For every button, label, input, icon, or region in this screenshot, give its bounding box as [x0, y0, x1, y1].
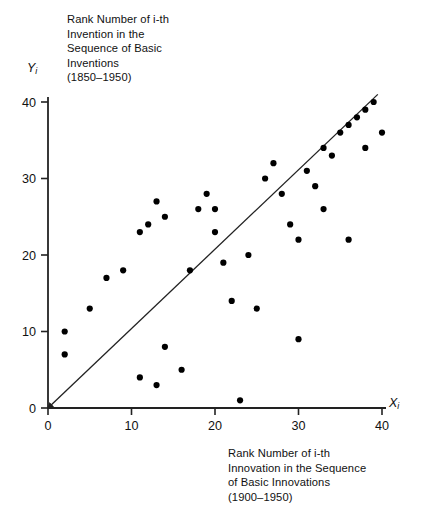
data-point	[62, 351, 68, 357]
data-point	[329, 152, 335, 158]
data-point	[295, 237, 301, 243]
y-tick-label: 10	[22, 325, 36, 339]
x-tick-label: 0	[44, 419, 51, 433]
data-point	[320, 206, 326, 212]
data-point	[145, 221, 151, 227]
data-point	[220, 260, 226, 266]
data-point	[204, 191, 210, 197]
data-point	[346, 122, 352, 128]
data-point	[212, 229, 218, 235]
data-point	[212, 206, 218, 212]
data-point	[346, 237, 352, 243]
x-tick-label: 30	[291, 419, 305, 433]
y-tick-label: 0	[29, 402, 36, 416]
x-axis-ticks: 010203040	[44, 408, 389, 433]
x-tick-label: 20	[208, 419, 222, 433]
data-points	[62, 99, 386, 404]
plot-area: 010203040 010203040	[0, 0, 422, 521]
data-point	[337, 130, 343, 136]
scatter-chart: Rank Number of i-th Invention in the Seq…	[0, 0, 422, 521]
x-axis-caption: Rank Number of i-th Innovation in the Se…	[228, 446, 418, 504]
data-point	[371, 99, 377, 105]
x-tick-label: 10	[124, 419, 138, 433]
data-point	[262, 175, 268, 181]
data-point	[237, 397, 243, 403]
data-point	[137, 229, 143, 235]
data-point	[103, 275, 109, 281]
data-point	[120, 267, 126, 273]
data-point	[162, 344, 168, 350]
data-point	[270, 160, 276, 166]
y-tick-label: 30	[22, 172, 36, 186]
data-point	[362, 107, 368, 113]
data-point	[179, 367, 185, 373]
data-point	[379, 130, 385, 136]
data-point	[137, 374, 143, 380]
data-point	[153, 198, 159, 204]
data-point	[153, 382, 159, 388]
data-point	[312, 183, 318, 189]
data-point	[304, 168, 310, 174]
data-point	[187, 267, 193, 273]
data-point	[245, 252, 251, 258]
data-point	[362, 145, 368, 151]
data-point	[62, 328, 68, 334]
data-point	[195, 206, 201, 212]
data-point	[254, 305, 260, 311]
x-tick-label: 40	[375, 419, 389, 433]
y-tick-label: 40	[22, 96, 36, 110]
data-point	[162, 214, 168, 220]
y-axis-ticks: 010203040	[22, 96, 48, 416]
data-point	[229, 298, 235, 304]
data-point	[354, 114, 360, 120]
data-point	[279, 191, 285, 197]
data-point	[87, 305, 93, 311]
y-tick-label: 20	[22, 249, 36, 263]
reference-line	[48, 94, 378, 408]
data-point	[320, 145, 326, 151]
axes	[48, 97, 386, 408]
data-point	[295, 336, 301, 342]
data-point	[287, 221, 293, 227]
